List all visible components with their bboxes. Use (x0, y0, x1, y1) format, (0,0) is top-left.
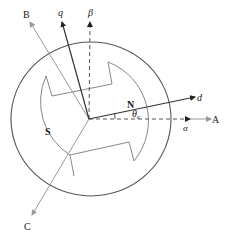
label-beta: β (87, 7, 93, 18)
beta-axis (89, 22, 90, 119)
label-b: B (23, 9, 30, 20)
motor-reference-frame-diagram: B q β d A α C N S θe (0, 0, 225, 236)
label-alpha: α (183, 123, 188, 133)
theta-angle-arc (115, 114, 116, 119)
label-c: C (24, 221, 31, 232)
c-phase-axis (32, 119, 89, 215)
rotor-south-arc (41, 76, 70, 155)
rotor-north-arc (108, 62, 148, 161)
d-axis (89, 97, 195, 119)
b-phase-axis (30, 22, 89, 119)
q-axis (62, 22, 89, 119)
label-d: d (197, 92, 203, 103)
label-south-pole: S (45, 126, 51, 137)
rotor-lower-notch (70, 142, 134, 176)
label-q: q (58, 7, 63, 18)
label-theta-e: θe (132, 108, 140, 120)
rotor-upper-notch (46, 62, 112, 96)
label-a: A (212, 114, 220, 125)
